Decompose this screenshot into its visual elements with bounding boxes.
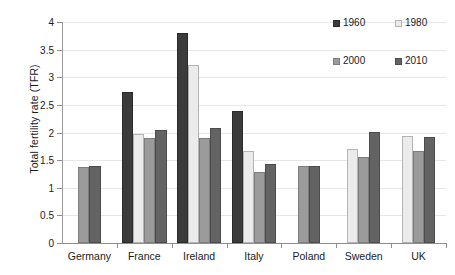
y-tick-label: 1 — [14, 183, 54, 194]
bar-italy-2010 — [265, 164, 276, 243]
x-axis-label-germany: Germany — [62, 250, 117, 262]
bar-italy-1960 — [232, 111, 243, 243]
bar-group-france — [122, 22, 167, 243]
legend-label-2000: 2000 — [343, 56, 365, 66]
legend-item-1980[interactable]: 1980 — [395, 18, 427, 28]
legend-swatch-2010 — [395, 58, 402, 65]
bar-sweden-2000 — [358, 157, 369, 243]
legend-label-1980: 1980 — [405, 18, 427, 28]
y-tick-label: 0.5 — [14, 210, 54, 221]
y-tick-label: 4 — [14, 17, 54, 28]
legend-label-1960: 1960 — [343, 18, 365, 28]
x-tick-mark — [172, 243, 173, 248]
bar-italy-1980 — [243, 151, 254, 243]
bar-france-2010 — [155, 130, 166, 243]
y-tick-label: 1.5 — [14, 155, 54, 166]
x-axis-label-sweden: Sweden — [336, 250, 391, 262]
bar-ireland-2010 — [210, 128, 221, 243]
y-tick-label: 3.5 — [14, 45, 54, 56]
bar-poland-2010 — [309, 166, 320, 243]
x-tick-mark — [227, 243, 228, 248]
y-tick-label: 0 — [14, 238, 54, 249]
bar-group-germany — [78, 22, 100, 243]
x-tick-mark — [336, 243, 337, 248]
bar-italy-2000 — [254, 172, 265, 243]
x-axis-label-italy: Italy — [227, 250, 282, 262]
bar-germany-2000 — [78, 167, 89, 243]
x-axis-line — [62, 243, 447, 244]
bar-chart: Total fertility rate (TFR) 00.511.522.53… — [0, 0, 455, 275]
x-tick-mark — [391, 243, 392, 248]
bar-france-1980 — [133, 134, 144, 243]
legend-swatch-2000 — [333, 58, 340, 65]
bar-ireland-1960 — [177, 33, 188, 243]
bar-group-ireland — [177, 22, 222, 243]
legend-item-1960[interactable]: 1960 — [333, 18, 365, 28]
legend-swatch-1960 — [333, 20, 340, 27]
legend-label-2010: 2010 — [405, 56, 427, 66]
bar-uk-2000 — [413, 151, 424, 243]
y-tick-label: 2 — [14, 128, 54, 139]
bar-poland-2000 — [298, 166, 309, 243]
x-axis-label-france: France — [117, 250, 172, 262]
x-tick-mark — [446, 243, 447, 248]
chart-legend: 1960198020002010 — [333, 18, 451, 76]
bar-france-1960 — [122, 92, 133, 243]
bar-germany-2010 — [89, 166, 100, 243]
bar-france-2000 — [144, 138, 155, 243]
bar-uk-1980 — [402, 136, 413, 243]
legend-swatch-1980 — [395, 20, 402, 27]
bar-uk-2010 — [424, 137, 435, 243]
bar-group-poland — [298, 22, 320, 243]
x-axis-label-uk: UK — [391, 250, 446, 262]
x-tick-mark — [281, 243, 282, 248]
y-tick-label: 2.5 — [14, 100, 54, 111]
y-tick-label: 3 — [14, 72, 54, 83]
legend-item-2010[interactable]: 2010 — [395, 56, 427, 66]
bar-ireland-1980 — [188, 65, 199, 243]
bar-group-italy — [232, 22, 277, 243]
legend-item-2000[interactable]: 2000 — [333, 56, 365, 66]
x-tick-mark — [117, 243, 118, 248]
bar-sweden-2010 — [369, 132, 380, 243]
bar-sweden-1980 — [347, 149, 358, 243]
x-axis-label-poland: Poland — [281, 250, 336, 262]
bar-ireland-2000 — [199, 138, 210, 243]
x-axis-label-ireland: Ireland — [172, 250, 227, 262]
